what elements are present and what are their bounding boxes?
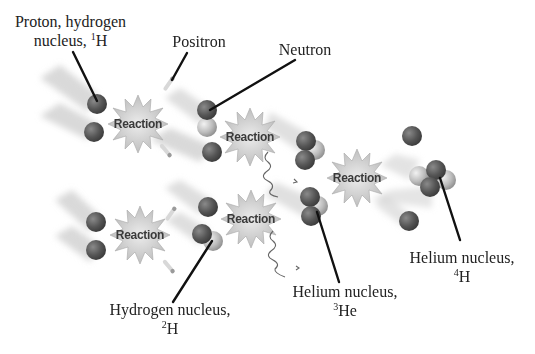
label-proton-line1: Proton, hydrogen — [8, 12, 133, 31]
positrons — [159, 76, 177, 275]
proton — [402, 126, 422, 146]
element-symbol: H — [96, 32, 108, 49]
label-text: nucleus, — [34, 32, 91, 49]
label-proton-line2: nucleus, 1H — [8, 31, 133, 50]
label-neutron-text: Neutron — [279, 41, 331, 58]
fusion-diagram: Reaction Reaction Reaction Reaction Reac… — [0, 0, 535, 354]
proton — [300, 187, 320, 207]
reaction-label: Reaction — [227, 212, 275, 226]
proton — [198, 197, 218, 217]
proton — [86, 240, 106, 260]
label-positron-text: Positron — [172, 33, 225, 50]
leader-helium3 — [317, 212, 339, 282]
reaction-4: Reaction — [110, 206, 170, 264]
gamma-ray-wave — [268, 231, 285, 277]
label-line2: 4H — [402, 267, 522, 286]
label-positron: Positron — [164, 32, 234, 51]
proton — [192, 224, 212, 244]
label-helium3: Helium nucleus, 3He — [285, 282, 405, 320]
label-line1: Helium nucleus, — [285, 282, 405, 301]
proton — [86, 212, 106, 232]
gamma-ray-arrow — [296, 266, 299, 270]
label-proton: Proton, hydrogen nucleus, 1H — [8, 12, 133, 50]
leader-positron — [172, 53, 187, 80]
proton — [426, 160, 446, 180]
label-line1: Helium nucleus, — [402, 248, 522, 267]
proton — [399, 211, 419, 231]
proton — [420, 177, 440, 197]
element-symbol: H — [167, 320, 179, 337]
leader-deuterium — [173, 241, 212, 302]
proton — [197, 100, 217, 120]
label-helium4: Helium nucleus, 4H — [402, 248, 522, 286]
proton — [84, 122, 104, 142]
reaction-label: Reaction — [116, 228, 164, 242]
element-symbol: H — [459, 268, 471, 285]
proton — [295, 150, 315, 170]
label-line2: 2H — [100, 319, 240, 338]
element-symbol: He — [338, 302, 357, 319]
reaction-label: Reaction — [333, 171, 381, 185]
reaction-label: Reaction — [114, 117, 162, 131]
reaction-label: Reaction — [226, 130, 274, 144]
gamma-ray-arrow — [293, 179, 297, 183]
diagram-canvas: Reaction Reaction Reaction Reaction Reac… — [0, 0, 535, 354]
proton — [202, 142, 222, 162]
label-line2: 3He — [285, 301, 405, 320]
leader-neutron — [210, 60, 295, 110]
proton — [296, 131, 316, 151]
label-deuterium: Hydrogen nucleus, 2H — [100, 300, 240, 338]
proton — [87, 94, 107, 114]
label-neutron: Neutron — [270, 40, 340, 59]
label-line1: Hydrogen nucleus, — [100, 300, 240, 319]
reaction-starbursts: Reaction Reaction Reaction Reaction Reac… — [108, 95, 387, 264]
reaction-1: Reaction — [108, 95, 168, 153]
positron-particle — [162, 259, 176, 274]
